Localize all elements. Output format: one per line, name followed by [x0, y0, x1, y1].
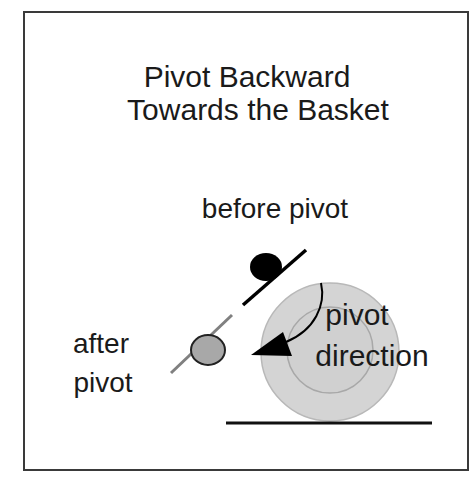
- label-pivot-direction-line-2: direction: [315, 339, 428, 372]
- title-line-2: Towards the Basket: [127, 93, 389, 126]
- label-before-pivot: before pivot: [202, 193, 349, 224]
- label-after-line-2: pivot: [73, 367, 132, 398]
- label-after-line-1: after: [73, 328, 129, 359]
- title-line-1: Pivot Backward: [144, 60, 351, 93]
- pivot-diagram: Pivot Backward Towards the Basket before…: [0, 0, 475, 479]
- player-after-icon: [171, 315, 232, 373]
- label-pivot-direction-line-1: pivot: [325, 298, 389, 331]
